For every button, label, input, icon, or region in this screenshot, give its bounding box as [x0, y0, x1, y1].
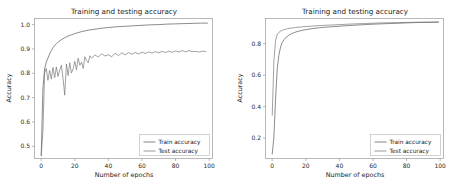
y-tick-label: 0.4	[251, 103, 261, 110]
series-line-test	[272, 22, 438, 115]
figure-root: Training and testing accuracy 0204060801…	[0, 0, 461, 194]
y-axis-ticks-left: 0.50.60.70.80.91.0	[20, 21, 34, 150]
chart-svg-left: Training and testing accuracy 0204060801…	[0, 0, 230, 194]
x-tick-label: 80	[403, 162, 411, 169]
chart-svg-right: Training and testing accuracy 0204060801…	[231, 0, 461, 194]
x-tick-label: 20	[71, 162, 79, 169]
legend-label-test: Test accuracy	[158, 148, 199, 155]
chart-panel-left: Training and testing accuracy 0204060801…	[0, 0, 230, 194]
x-tick-label: 60	[369, 162, 377, 169]
legend-right[interactable]: Train accuracyTest accuracy	[371, 135, 441, 156]
y-tick-label: 0.2	[251, 134, 261, 141]
y-tick-label: 0.6	[20, 118, 30, 125]
y-tick-label: 1.0	[20, 21, 30, 28]
y-tick-label: 0.8	[20, 69, 30, 76]
y-tick-label: 0.6	[251, 71, 261, 78]
y-tick-label: 0.8	[251, 40, 261, 47]
x-tick-label: 100	[203, 162, 215, 169]
x-tick-label: 0	[39, 162, 43, 169]
chart-panel-right: Training and testing accuracy 0204060801…	[231, 0, 461, 194]
x-tick-label: 80	[172, 162, 180, 169]
x-tick-label: 20	[302, 162, 310, 169]
y-tick-label: 0.5	[20, 142, 30, 149]
chart-title-left: Training and testing accuracy	[70, 7, 178, 16]
y-tick-label: 0.7	[20, 94, 30, 101]
x-axis-label-right: Number of epochs	[326, 171, 385, 179]
x-tick-label: 100	[434, 162, 446, 169]
x-axis-label-left: Number of epochs	[95, 171, 154, 179]
x-tick-label: 40	[336, 162, 344, 169]
legend-label-train: Train accuracy	[158, 139, 201, 146]
y-axis-label-right: Accuracy	[236, 73, 244, 102]
x-tick-label: 40	[105, 162, 113, 169]
x-axis-ticks-right: 020406080100	[270, 159, 446, 169]
legend-label-train: Train accuracy	[389, 139, 432, 146]
legend-label-test: Test accuracy	[389, 148, 430, 155]
x-tick-label: 0	[270, 162, 274, 169]
y-axis-label-left: Accuracy	[5, 73, 13, 102]
y-tick-label: 0.9	[20, 45, 30, 52]
x-tick-label: 60	[138, 162, 146, 169]
y-axis-ticks-right: 0.20.40.60.8	[251, 40, 265, 141]
chart-title-right: Training and testing accuracy	[301, 7, 409, 16]
legend-left[interactable]: Train accuracyTest accuracy	[140, 135, 210, 156]
x-axis-ticks-left: 020406080100	[39, 159, 215, 169]
